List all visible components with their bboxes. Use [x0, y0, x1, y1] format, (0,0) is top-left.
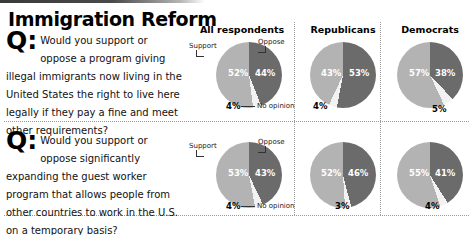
legend-oppose-label-q2: Oppose: [258, 138, 285, 146]
slice-label-oppose: 46%: [348, 168, 368, 178]
column-header-all-respondents: All respondents: [188, 24, 296, 35]
legend-no-opinion-label-q1: No opinion: [257, 102, 295, 110]
column-header-democrats: Democrats: [388, 24, 472, 35]
infographic-page: Immigration Reform All respondents Repub…: [0, 0, 473, 235]
question-marker: Q:: [6, 30, 37, 52]
pie-chart-q2-republicans: 46% 52%: [310, 142, 378, 210]
slice-label-support: 52%: [321, 168, 341, 178]
leader-line-oppose-q2: [258, 146, 266, 153]
slice-label-no-opinion-q2-republicans: 3%: [335, 201, 349, 211]
slice-label-support: 57%: [409, 68, 429, 78]
column-divider-1: [294, 22, 295, 215]
slice-label-no-opinion-q2-democrats: 4%: [425, 201, 439, 211]
question-block-2: Q: Would you support or oppose significa…: [6, 130, 186, 235]
leader-line-no-opinion-q1: [241, 106, 255, 107]
slice-label-oppose: 43%: [255, 168, 275, 178]
slice-label-oppose: 38%: [435, 68, 455, 78]
legend-support-label-q1: Support: [189, 42, 217, 50]
pie-chart-q1-democrats: 38% 57%: [397, 42, 465, 110]
leader-line-oppose-q1: [258, 46, 266, 53]
slice-label-no-opinion-q1-republicans: 4%: [313, 101, 327, 111]
slice-label-support: 43%: [321, 68, 341, 78]
slice-label-support: 52%: [228, 68, 248, 78]
legend-support-label-q2: Support: [189, 142, 217, 150]
leader-line-no-opinion-q2: [241, 206, 255, 207]
pie-chart-q2-all-respondents: 43% 53%: [216, 142, 284, 210]
leader-line-support-q2: [196, 150, 204, 157]
slice-label-oppose: 53%: [349, 68, 369, 78]
slice-label-oppose: 41%: [435, 168, 455, 178]
legend-oppose-label-q1: Oppose: [258, 38, 285, 46]
slice-label-support: 55%: [409, 168, 429, 178]
column-divider-2: [380, 22, 381, 215]
slice-label-support: 53%: [228, 168, 248, 178]
question-block-1: Q: Would you support or oppose a program…: [6, 30, 186, 138]
slice-label-no-opinion-q2-all: 4%: [226, 201, 240, 211]
pie-chart-q2-democrats: 41% 55%: [397, 142, 465, 210]
slice-label-no-opinion-q1-all: 4%: [226, 101, 240, 111]
page-title: Immigration Reform: [8, 8, 217, 30]
pie-chart-q1-republicans: 53% 43%: [310, 42, 378, 110]
slice-label-no-opinion-q1-democrats: 5%: [432, 104, 446, 114]
question-marker: Q:: [6, 130, 37, 152]
pie-chart-q1-all-respondents: 44% 52%: [216, 42, 284, 110]
column-header-republicans: Republicans: [300, 24, 386, 35]
leader-line-support-q1: [196, 50, 204, 57]
slice-label-oppose: 44%: [255, 68, 275, 78]
legend-no-opinion-label-q2: No opinion: [257, 202, 295, 210]
